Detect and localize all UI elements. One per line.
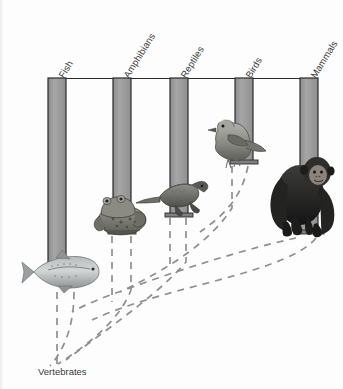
vertebrate-evolution-diagram: Fish Amphibians Reptiles Birds Mammals V…: [0, 0, 343, 389]
bird-icon: [208, 120, 266, 168]
chimpanzee-icon: [270, 157, 334, 237]
animal-illustrations-layer: [0, 0, 343, 389]
fish-icon: [22, 250, 99, 293]
frog-icon: [94, 195, 146, 234]
root-label-vertebrates: Vertebrates: [38, 366, 87, 377]
lizard-icon: [136, 181, 208, 216]
